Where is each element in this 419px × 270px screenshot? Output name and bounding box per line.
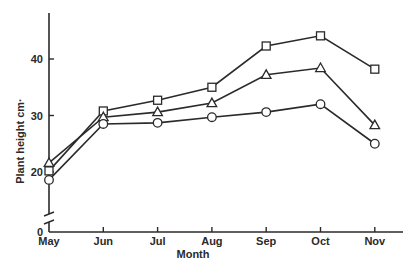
circle-marker <box>208 113 217 122</box>
circle-marker <box>262 108 271 117</box>
line-chart: 0203040MayJunJulAugSepOctNovMonthPlant h… <box>0 0 419 270</box>
x-axis-title: Month <box>177 248 210 260</box>
square-marker <box>317 32 325 40</box>
circle-marker <box>99 120 108 129</box>
y-tick-label: 40 <box>31 53 43 65</box>
circle-marker <box>316 100 325 109</box>
circle-marker <box>153 119 162 128</box>
x-tick-label: Jun <box>94 235 114 247</box>
square-marker <box>371 65 379 73</box>
triangle-marker <box>316 63 326 72</box>
x-tick-label: Sep <box>256 235 276 247</box>
x-tick-label: Oct <box>311 235 330 247</box>
square-marker <box>154 96 162 104</box>
x-tick-label: Nov <box>364 235 386 247</box>
x-tick-label: Aug <box>201 235 222 247</box>
y-tick-label: 30 <box>31 110 43 122</box>
triangle-marker <box>207 98 217 107</box>
square-marker <box>45 167 53 175</box>
series-group <box>44 32 379 184</box>
axis-labels: 0203040MayJunJulAugSepOctNovMonthPlant h… <box>14 53 386 260</box>
y-tick-label: 20 <box>31 166 43 178</box>
x-tick-label: Jul <box>150 235 166 247</box>
circle-marker <box>45 176 54 185</box>
y-axis-title: Plant height cm· <box>14 98 26 184</box>
square-marker <box>208 83 216 91</box>
series-circle <box>45 100 379 184</box>
circle-marker <box>371 139 380 148</box>
square-marker <box>262 42 270 50</box>
x-tick-label: May <box>38 235 60 247</box>
